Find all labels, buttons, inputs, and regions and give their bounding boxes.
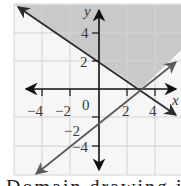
inequality-graph: y x 0 −4 −2 2 4 4 2 −2 −4 (0, 0, 181, 186)
caption-text: Domain drawing in T (6, 177, 181, 186)
y-tick-label: −4 (72, 139, 88, 155)
origin-label: 0 (82, 97, 90, 113)
x-tick-label: 4 (149, 103, 157, 119)
x-axis-label: x (171, 92, 179, 108)
y-tick-label: −2 (64, 123, 80, 139)
y-axis-label: y (82, 3, 91, 19)
y-tick-label: 4 (81, 25, 89, 41)
y-tick-label: 2 (80, 54, 88, 70)
x-tick-label: 2 (122, 103, 130, 119)
x-tick-label: −2 (55, 103, 71, 119)
x-tick-label: −4 (27, 103, 43, 119)
